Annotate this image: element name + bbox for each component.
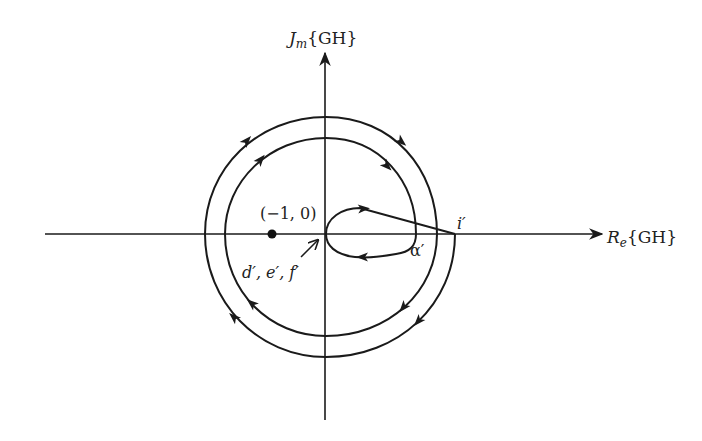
- alpha-label: α′: [410, 241, 425, 260]
- real-axis-label: Re{GH}: [606, 227, 677, 250]
- origin-pointer-arrow: [301, 240, 318, 257]
- i-label: i′: [457, 214, 466, 233]
- origin-mapping-label: d′, e′, f′: [242, 263, 299, 282]
- imaginary-axis-label: Jm{GH}: [286, 28, 357, 51]
- critical-point-label: (−1, 0): [260, 204, 316, 223]
- arrow-outer-bottom-left-icon: [226, 310, 241, 325]
- nyquist-diagram: Jm{GH} Re{GH} (−1, 0) d′, e′, f′ α′ i′: [0, 0, 702, 441]
- critical-point-dot: [268, 230, 277, 239]
